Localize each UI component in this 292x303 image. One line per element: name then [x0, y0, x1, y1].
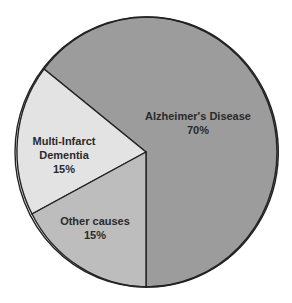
label-other-name: Other causes — [50, 214, 140, 228]
pie-chart: Alzheimer's Disease 70% Multi-Infarct De… — [0, 0, 292, 303]
label-multi-infarct-value: 15% — [20, 162, 108, 176]
label-multi-infarct-name-2: Dementia — [20, 148, 108, 162]
label-other-value: 15% — [50, 228, 140, 242]
label-alzheimers-value: 70% — [143, 123, 253, 137]
label-alzheimers: Alzheimer's Disease 70% — [143, 109, 253, 137]
label-other: Other causes 15% — [50, 214, 140, 242]
label-multi-infarct-name-1: Multi-Infarct — [20, 134, 108, 148]
label-multi-infarct: Multi-Infarct Dementia 15% — [20, 134, 108, 176]
label-alzheimers-name: Alzheimer's Disease — [143, 109, 253, 123]
